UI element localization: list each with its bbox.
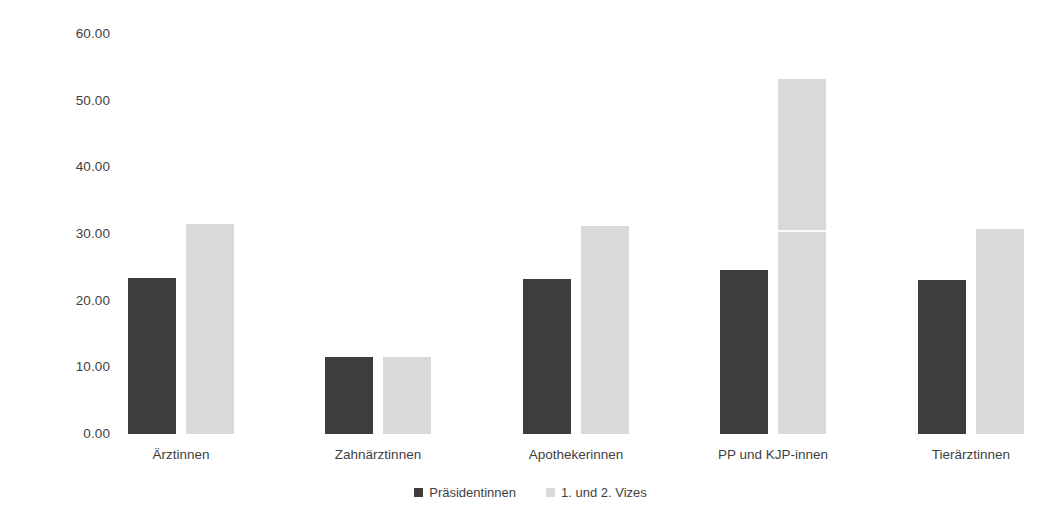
x-axis: ÄrztinnenZahnärztinnenApothekerinnenPP u…	[0, 434, 1061, 474]
bar-1-2	[581, 226, 629, 434]
bar-1-1	[383, 357, 431, 434]
x-axis-category-label: Tierärztinnen	[871, 448, 1061, 462]
x-axis-category-label: Apothekerinnen	[476, 448, 676, 462]
legend-swatch-icon	[546, 488, 555, 497]
x-axis-category-label: Zahnärztinnen	[278, 448, 478, 462]
bar-1-3	[778, 79, 826, 434]
bar-0-2	[523, 279, 571, 434]
bar-1-0	[186, 224, 234, 434]
bar-0-0	[128, 278, 176, 434]
x-axis-category-label: Ärztinnen	[81, 448, 281, 462]
bar-chart: 0.0010.0020.0030.0040.0050.0060.00 Ärzti…	[0, 0, 1061, 518]
render-seam-artifact	[778, 230, 826, 232]
legend-label: Präsidentinnen	[429, 486, 516, 499]
x-axis-category-label: PP und KJP-innen	[673, 448, 873, 462]
legend-label: 1. und 2. Vizes	[561, 486, 647, 499]
bar-0-1	[325, 357, 373, 434]
legend-swatch-icon	[414, 488, 423, 497]
bar-0-4	[918, 280, 966, 434]
bars-layer	[0, 0, 1061, 434]
plot-area: 0.0010.0020.0030.0040.0050.0060.00	[0, 0, 1061, 434]
chart-legend: Präsidentinnen1. und 2. Vizes	[0, 481, 1061, 503]
bar-0-3	[720, 270, 768, 434]
legend-item-1[interactable]: 1. und 2. Vizes	[546, 486, 647, 499]
legend-item-0[interactable]: Präsidentinnen	[414, 486, 516, 499]
bar-1-4	[976, 229, 1024, 434]
